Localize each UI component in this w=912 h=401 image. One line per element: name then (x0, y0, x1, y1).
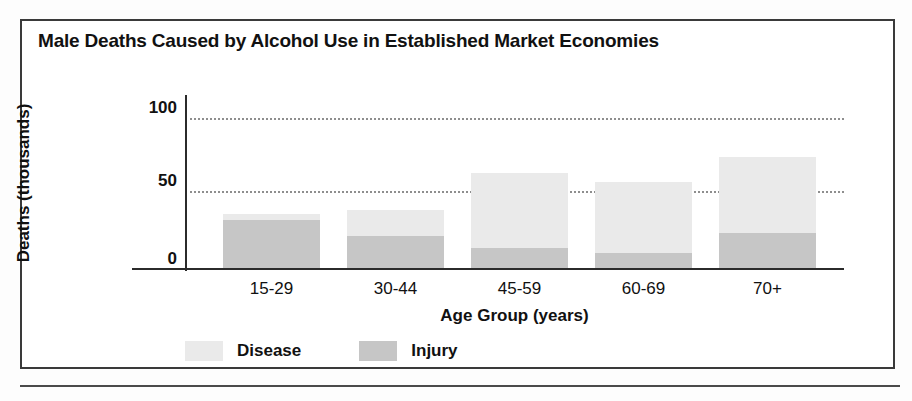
bar-stack (595, 182, 692, 268)
legend-swatch (359, 341, 397, 361)
legend-label: Disease (237, 341, 301, 361)
x-tick-label: 45-59 (471, 279, 568, 299)
x-tick-label: 15-29 (223, 279, 320, 299)
legend-label: Injury (411, 341, 457, 361)
bar-segment-disease (719, 157, 816, 233)
y-tick-label-50: 50 (121, 172, 177, 189)
bar-segment-injury (347, 236, 444, 268)
bar-stack (347, 210, 444, 268)
bar-segment-injury (595, 253, 692, 268)
y-axis-title: Deaths (thousands) (14, 93, 36, 273)
legend-item: Disease (185, 341, 301, 361)
bar-segment-disease (347, 210, 444, 236)
bar-stack (471, 173, 568, 268)
x-tick-label: 60-69 (595, 279, 692, 299)
bar-stack (223, 214, 320, 268)
bar-segment-injury (719, 233, 816, 268)
bar-segment-disease (595, 182, 692, 254)
scanned-page: Male Deaths Caused by Alcohol Use in Est… (0, 0, 912, 401)
y-tick-label-0: 0 (121, 250, 177, 267)
legend: DiseaseInjury (185, 341, 458, 361)
legend-item: Injury (359, 341, 457, 361)
figure-frame: Male Deaths Caused by Alcohol Use in Est… (20, 19, 895, 369)
bar-segment-injury (223, 220, 320, 268)
bar-stack (719, 157, 816, 268)
y-axis-line (185, 95, 187, 271)
x-axis-line (132, 268, 844, 270)
x-tick-label: 70+ (719, 279, 816, 299)
gridline-100 (185, 118, 844, 120)
bar-segment-disease (471, 173, 568, 247)
y-tick-label-100: 100 (121, 99, 177, 116)
x-tick-label: 30-44 (347, 279, 444, 299)
plot-area: 100 50 0 Deaths (thousands) 15-2930-4445… (22, 21, 897, 371)
page-horizontal-rule (20, 385, 900, 387)
bar-segment-injury (471, 248, 568, 268)
x-axis-title: Age Group (years) (185, 306, 844, 326)
legend-swatch (185, 341, 223, 361)
